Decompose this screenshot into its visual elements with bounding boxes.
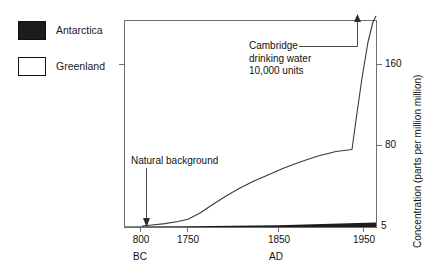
y-tick-label-160: 160	[385, 58, 402, 69]
annotation-cambridge: Cambridge drinking water 10,000 units	[249, 40, 311, 78]
y-axis-title: Concentration (parts per million million…	[412, 75, 423, 248]
annotation-cambridge-line1: Cambridge	[249, 40, 311, 53]
series-antarctica-band	[125, 222, 376, 227]
y-tick-label-5: 5	[381, 220, 387, 231]
annotation-natural-background: Natural background	[131, 155, 218, 168]
x-era-label-ad: AD	[269, 251, 283, 262]
x-tick-label-1850: 1850	[261, 234, 297, 245]
plot-area	[0, 0, 434, 271]
annotation-cambridge-line3: 10,000 units	[249, 65, 311, 78]
y-tick-label-80: 80	[385, 139, 396, 150]
x-tick-label-1950: 1950	[346, 234, 382, 245]
x-tick-label-800: 800	[126, 234, 156, 245]
cambridge-up-arrow-icon	[354, 14, 361, 22]
x-era-label-bc: BC	[133, 251, 147, 262]
annotation-cambridge-line2: drinking water	[249, 53, 311, 66]
chart-figure: Antarctica Greenland Cambridge	[0, 0, 434, 271]
x-tick-label-1750: 1750	[170, 234, 206, 245]
